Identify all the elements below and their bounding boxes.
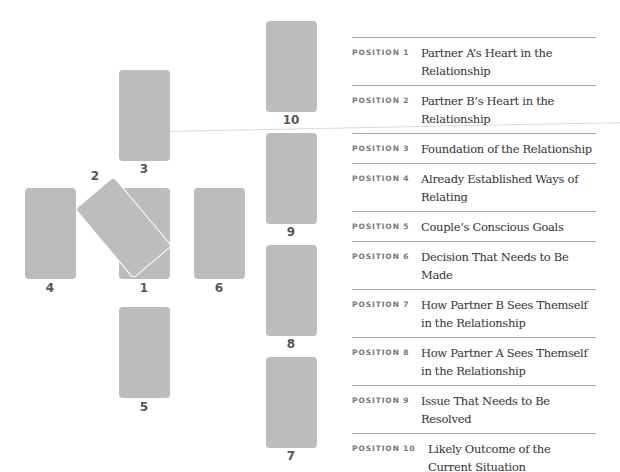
position-legend: POSITION 1 Partner A’s Heart in the Rela… — [352, 37, 596, 472]
card-10 — [266, 21, 317, 112]
position-label: POSITION 1 — [352, 44, 421, 57]
position-description: Foundation of the Relationship — [421, 140, 592, 158]
position-label: POSITION 10 — [352, 440, 428, 453]
position-label: POSITION 9 — [352, 392, 421, 405]
position-description: Partner A’s Heart in the Relationship — [421, 44, 596, 80]
legend-row-4: POSITION 4 Already Established Ways of R… — [352, 164, 596, 212]
card-1-number: 1 — [124, 281, 164, 295]
card-8 — [266, 245, 317, 336]
card-8-number: 8 — [271, 337, 311, 351]
card-5-number: 5 — [124, 400, 164, 414]
card-6 — [194, 188, 245, 279]
card-3 — [119, 70, 170, 161]
position-label: POSITION 5 — [352, 218, 421, 231]
card-5 — [119, 307, 170, 398]
legend-row-8: POSITION 8 How Partner A Sees Themself i… — [352, 338, 596, 386]
legend-row-1: POSITION 1 Partner A’s Heart in the Rela… — [352, 38, 596, 86]
card-4 — [25, 188, 76, 279]
position-label: POSITION 3 — [352, 140, 421, 153]
legend-row-7: POSITION 7 How Partner B Sees Themself i… — [352, 290, 596, 338]
card-10-number: 10 — [271, 113, 311, 127]
card-9 — [266, 133, 317, 224]
position-description: How Partner A Sees Themself in the Relat… — [421, 344, 596, 380]
position-description: Partner B’s Heart in the Relationship — [421, 92, 596, 128]
card-3-number: 3 — [124, 162, 164, 176]
position-label: POSITION 2 — [352, 92, 421, 105]
legend-row-6: POSITION 6 Decision That Needs to Be Mad… — [352, 242, 596, 290]
position-description: Issue That Needs to Be Resolved — [421, 392, 596, 428]
card-6-number: 6 — [199, 281, 239, 295]
position-description: Decision That Needs to Be Made — [421, 248, 596, 284]
card-4-number: 4 — [30, 281, 70, 295]
card-2-number: 2 — [75, 169, 115, 183]
position-label: POSITION 4 — [352, 170, 421, 183]
card-7 — [266, 357, 317, 448]
position-description: Likely Outcome of the Current Situation — [428, 440, 596, 472]
card-9-number: 9 — [271, 225, 311, 239]
card-7-number: 7 — [271, 449, 311, 463]
position-description: How Partner B Sees Themself in the Relat… — [421, 296, 596, 332]
legend-row-9: POSITION 9 Issue That Needs to Be Resolv… — [352, 386, 596, 434]
legend-row-5: POSITION 5 Couple’s Conscious Goals — [352, 212, 596, 242]
position-description: Already Established Ways of Relating — [421, 170, 596, 206]
position-label: POSITION 7 — [352, 296, 421, 309]
legend-row-2: POSITION 2 Partner B’s Heart in the Rela… — [352, 86, 596, 134]
position-label: POSITION 6 — [352, 248, 421, 261]
position-description: Couple’s Conscious Goals — [421, 218, 564, 236]
legend-row-3: POSITION 3 Foundation of the Relationshi… — [352, 134, 596, 164]
position-label: POSITION 8 — [352, 344, 421, 357]
legend-row-10: POSITION 10 Likely Outcome of the Curren… — [352, 434, 596, 472]
